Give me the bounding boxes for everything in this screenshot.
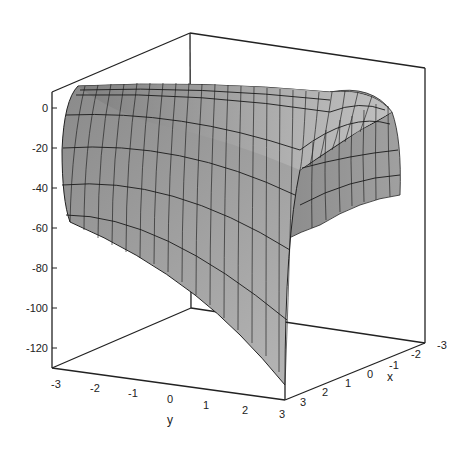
- z-axis-labels: 0 -20 -40 -60 -80 -100 -120: [26, 102, 48, 354]
- z-tick-label: -20: [32, 142, 48, 154]
- surface: [62, 83, 400, 385]
- y-tick-label: 0: [167, 393, 173, 405]
- y-tick-label: -3: [51, 378, 61, 390]
- z-axis: [52, 108, 57, 348]
- y-axis-labels: -3 -2 -1 0 1 2 3 y: [51, 378, 285, 427]
- x-tick-label: -3: [437, 339, 447, 351]
- x-tick-label: 3: [300, 396, 306, 408]
- x-tick-label: 2: [322, 386, 328, 398]
- x-axis-title: x: [387, 370, 393, 384]
- z-tick-label: -100: [26, 302, 48, 314]
- x-tick-label: 0: [367, 368, 373, 380]
- y-tick-label: -2: [90, 382, 100, 394]
- x-tick-label: -2: [411, 348, 421, 360]
- z-tick-label: -60: [32, 222, 48, 234]
- x-axis-labels: 3 2 1 0 -1 -2 -3 x: [300, 339, 447, 408]
- z-tick-label: -80: [32, 262, 48, 274]
- surface-plot: 0 -20 -40 -60 -80 -100 -120 -3 -2 -1 0 1…: [0, 0, 469, 449]
- z-tick-label: -120: [26, 342, 48, 354]
- y-tick-label: -1: [128, 387, 138, 399]
- y-axis-title: y: [167, 413, 173, 427]
- z-tick-label: -40: [32, 182, 48, 194]
- y-tick-label: 1: [203, 399, 209, 411]
- x-tick-label: 1: [345, 377, 351, 389]
- y-tick-label: 3: [279, 408, 285, 420]
- z-tick-label: 0: [42, 102, 48, 114]
- y-tick-label: 2: [242, 404, 248, 416]
